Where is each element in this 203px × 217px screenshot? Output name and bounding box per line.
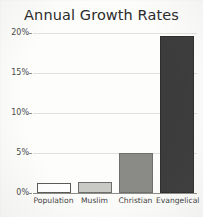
y-tick-mark-15 — [29, 73, 32, 74]
chart-title: Annual Growth Rates — [0, 7, 203, 23]
y-tick-mark-5 — [29, 153, 32, 154]
bar-muslim[interactable] — [78, 182, 112, 193]
bar-population[interactable] — [37, 183, 71, 193]
x-axis-baseline — [33, 193, 197, 194]
x-axis-label-evangelical: Evangelical — [156, 195, 197, 206]
y-tick-mark-0 — [29, 193, 32, 194]
y-axis-tick-label-15: 15% — [11, 69, 29, 77]
y-axis-labels: 20% 15% 10% 5% 0% — [0, 33, 29, 193]
x-axis-label-christian: Christian — [115, 195, 156, 206]
y-tick-mark-10 — [29, 113, 32, 114]
bar-christian[interactable] — [119, 153, 153, 193]
x-axis-label-population: Population — [33, 195, 74, 206]
y-axis-tick-label-5: 5% — [16, 149, 29, 157]
plot-area — [33, 33, 197, 193]
bar-evangelical[interactable] — [160, 36, 194, 193]
annual-growth-rates-chart: Annual Growth Rates 20% 15% 10% 5% 0% Po… — [0, 0, 203, 217]
y-tick-mark-20 — [29, 33, 32, 34]
x-axis-labels: Population Muslim Christian Evangelical — [33, 195, 201, 209]
y-axis-tick-label-10: 10% — [11, 109, 29, 117]
x-axis-label-muslim: Muslim — [74, 195, 115, 206]
y-axis-tick-label-0: 0% — [16, 189, 29, 197]
gridline-20 — [33, 33, 197, 34]
y-axis-tick-label-20: 20% — [11, 29, 29, 37]
